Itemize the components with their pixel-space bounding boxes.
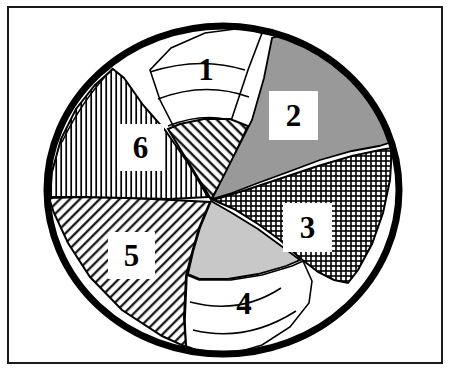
sector-2-label: 2 — [269, 91, 318, 140]
figure-root: 1 2 3 4 5 6 — [0, 0, 451, 371]
sector-3-label: 3 — [283, 203, 332, 252]
sector-4-label: 4 — [228, 286, 260, 320]
sector-1-label: 1 — [190, 52, 222, 86]
circular-sector-diagram — [0, 0, 451, 371]
sector-6-label: 6 — [117, 124, 164, 171]
sector-5-label: 5 — [108, 232, 155, 279]
